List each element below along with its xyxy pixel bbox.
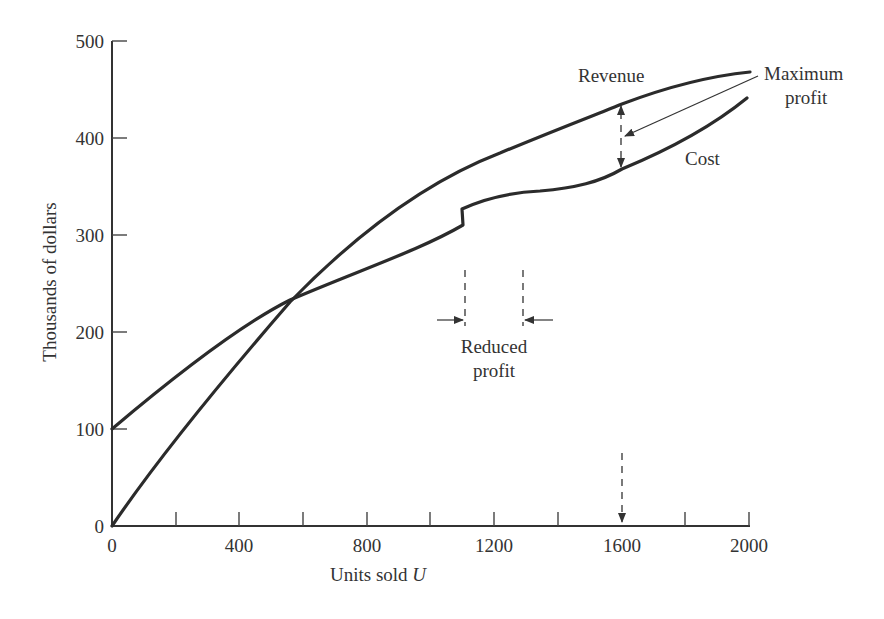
x-tick-label: 0 bbox=[107, 535, 117, 556]
revenue-label: Revenue bbox=[578, 65, 644, 86]
x-tick-label: 2000 bbox=[730, 535, 768, 556]
reduced-profit-label-line2: profit bbox=[473, 360, 516, 381]
y-tick-labels: 500 400 300 200 100 0 bbox=[76, 31, 105, 537]
y-tick-label: 400 bbox=[76, 128, 105, 149]
x-tick-labels: 0 400 800 1200 1600 2000 bbox=[107, 535, 768, 556]
cost-curve bbox=[112, 98, 747, 429]
x-axis-title: Units sold U bbox=[330, 564, 427, 585]
x-tick-label: 800 bbox=[353, 535, 382, 556]
y-tick-label: 500 bbox=[76, 31, 105, 52]
x-tick-label: 1600 bbox=[603, 535, 641, 556]
y-tick-label: 300 bbox=[76, 225, 105, 246]
axes bbox=[111, 41, 750, 527]
x-tick-label: 400 bbox=[225, 535, 254, 556]
cost-label: Cost bbox=[685, 148, 721, 169]
max-profit-label-line1: Maximum bbox=[764, 63, 843, 84]
y-tick-label: 200 bbox=[76, 322, 105, 343]
y-ticks bbox=[112, 41, 127, 429]
revenue-cost-chart: 500 400 300 200 100 0 0 400 800 1200 160… bbox=[0, 0, 884, 619]
x-tick-label: 1200 bbox=[475, 535, 513, 556]
reduced-profit-marker bbox=[437, 270, 553, 326]
max-profit-label-line2: profit bbox=[785, 87, 828, 108]
revenue-curve bbox=[112, 72, 750, 526]
reduced-profit-label-line1: Reduced bbox=[461, 336, 528, 357]
y-axis-title: Thousands of dollars bbox=[39, 202, 60, 361]
y-tick-label: 0 bbox=[95, 516, 105, 537]
x-ticks bbox=[176, 512, 749, 526]
y-tick-label: 100 bbox=[76, 419, 105, 440]
